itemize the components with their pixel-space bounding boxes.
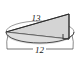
- base-dim-tick-right: [72, 35, 73, 49]
- geometry-figure-container: 13 12: [0, 0, 80, 58]
- cone-diagram: 13 12: [0, 0, 80, 58]
- slant-length-label: 13: [32, 13, 42, 23]
- base-length-label: 12: [35, 45, 45, 55]
